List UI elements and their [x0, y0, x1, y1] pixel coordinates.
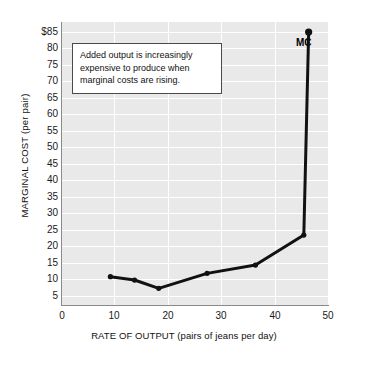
gridline-horizontal	[62, 296, 328, 297]
x-tick-label: 0	[47, 310, 77, 322]
annotation-line: expensive to produce when	[80, 62, 214, 75]
y-tick-label: $85	[24, 27, 58, 37]
gridline-horizontal	[62, 131, 328, 132]
gridline-horizontal	[62, 197, 328, 198]
y-tick-label: 80	[24, 43, 58, 53]
annotation-line: Added output is increasingly	[80, 49, 214, 62]
gridline-horizontal	[62, 263, 328, 264]
gridline-horizontal	[62, 230, 328, 231]
x-axis-line	[61, 305, 329, 306]
y-axis-title: MARGINAL COST (per pair)	[19, 56, 30, 256]
marginal-cost-chart: $85 80 75 70 65 60 55 50 45 40 35 30 25 …	[0, 0, 368, 365]
x-tick-label: 50	[313, 310, 343, 322]
mc-curve-label: MC	[296, 37, 312, 48]
x-axis-title: RATE OF OUTPUT (pairs of jeans per day)	[0, 330, 368, 341]
x-tick-label: 10	[99, 310, 129, 322]
gridline-horizontal	[62, 246, 328, 247]
gridline-horizontal	[62, 213, 328, 214]
annotation-line: marginal costs are rising.	[80, 74, 214, 87]
gridline-horizontal	[62, 180, 328, 181]
gridline-horizontal	[62, 164, 328, 165]
y-tick-label: 10	[24, 274, 58, 284]
gridline-horizontal	[62, 147, 328, 148]
x-tick-label: 20	[153, 310, 183, 322]
annotation-note: Added output is increasingly expensive t…	[72, 43, 222, 94]
y-axis-line	[61, 22, 62, 306]
gridline-horizontal	[62, 32, 328, 33]
gridline-vertical	[275, 22, 276, 305]
gridline-horizontal	[62, 279, 328, 280]
x-tick-label: 30	[206, 310, 236, 322]
x-tick-label: 40	[260, 310, 290, 322]
gridline-horizontal	[62, 98, 328, 99]
gridline-vertical	[328, 22, 329, 305]
y-tick-label: 15	[24, 258, 58, 268]
y-tick-label: 5	[24, 291, 58, 301]
gridline-horizontal	[62, 114, 328, 115]
